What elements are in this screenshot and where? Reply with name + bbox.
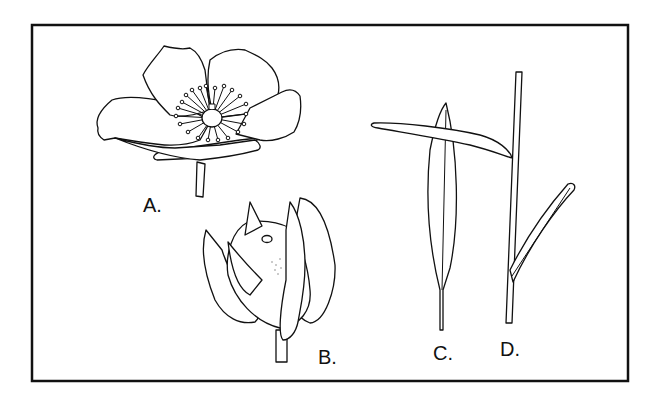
- label-c: C.: [433, 342, 453, 364]
- label-d: D.: [500, 338, 520, 360]
- label-a: A.: [143, 194, 162, 216]
- label-b: B.: [318, 346, 337, 368]
- botanical-figure: A. B. C. D.: [0, 0, 660, 407]
- figure-frame: [32, 25, 628, 381]
